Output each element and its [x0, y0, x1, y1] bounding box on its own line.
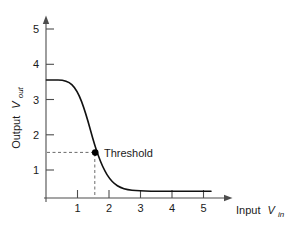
y-axis-title: Output V out	[10, 86, 25, 148]
y-tick-label-5: 5	[33, 23, 39, 35]
x-axis-title-main: Input	[236, 204, 260, 216]
x-tick-labels: 1 2 3 4 5	[74, 202, 206, 214]
y-tick-label-4: 4	[33, 58, 39, 70]
x-tick-label-5: 5	[200, 202, 206, 214]
y-tick-labels: 5 4 3 2 1	[33, 23, 39, 176]
x-axis-title: Input V in	[236, 204, 285, 219]
vtc-plot: 5 4 3 2 1 1 2 3 4 5	[0, 0, 302, 229]
vtc-curve	[47, 80, 212, 191]
svg-text:Input V in: Input V in	[236, 204, 285, 219]
chart-figure: 5 4 3 2 1 1 2 3 4 5	[0, 0, 302, 229]
y-tick-label-1: 1	[33, 164, 39, 176]
x-axis-arrowhead	[224, 195, 233, 201]
x-axis-title-var: V	[268, 204, 277, 216]
x-axis-title-sub: in	[278, 210, 285, 219]
y-axis-arrowhead	[43, 16, 49, 25]
y-tick-label-2: 2	[33, 129, 39, 141]
x-tick-label-2: 2	[106, 202, 112, 214]
axes-group	[43, 16, 233, 203]
threshold-marker-dot	[92, 149, 99, 156]
svg-text:Output V out: Output V out	[10, 86, 25, 148]
y-axis-title-sub: out	[16, 86, 25, 98]
y-axis-title-main: Output	[10, 116, 22, 149]
x-tick-label-3: 3	[137, 202, 143, 214]
threshold-annotation: Threshold	[92, 147, 153, 159]
threshold-guides	[47, 152, 95, 197]
y-tick-marks	[46, 29, 54, 170]
y-tick-label-3: 3	[33, 94, 39, 106]
x-tick-label-1: 1	[74, 202, 80, 214]
y-axis-title-var: V	[10, 100, 22, 109]
x-tick-label-4: 4	[169, 202, 175, 214]
threshold-label: Threshold	[104, 147, 153, 159]
